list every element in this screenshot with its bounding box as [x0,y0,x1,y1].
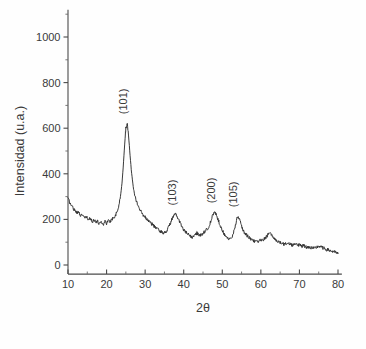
y-tick-label: 400 [42,168,60,180]
x-tick-label: 40 [178,278,190,290]
x-tick-label: 30 [139,278,151,290]
y-axis-title: Intensidad (u.a.) [13,106,27,196]
peak-label-101: (101) [117,88,129,114]
x-tick-label: 80 [332,278,344,290]
peak-label-200: (200) [205,178,217,204]
x-axis-title: 2θ [196,301,210,315]
y-tick-label: 1000 [36,31,60,43]
x-tick-label: 20 [100,278,112,290]
y-tick-label: 200 [42,213,60,225]
y-tick-label: 0 [54,259,60,271]
y-tick-label: 800 [42,77,60,89]
x-tick-label: 60 [255,278,267,290]
peak-label-105: (105) [227,182,239,208]
y-tick-label: 600 [42,122,60,134]
x-tick-label: 50 [216,278,228,290]
chart-canvas: 02004006008001000 1020304050607080 (101)… [0,0,366,349]
x-tick-label: 70 [293,278,305,290]
xrd-diffractogram-figure: 02004006008001000 1020304050607080 (101)… [0,0,366,349]
x-tick-label: 10 [62,278,74,290]
peak-label-103: (103) [166,180,178,206]
